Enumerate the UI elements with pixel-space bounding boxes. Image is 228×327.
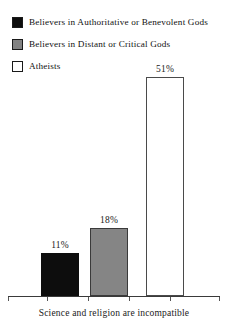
axis-tick: [47, 297, 48, 301]
black-square-icon: [12, 17, 23, 28]
legend-item-label: Believers in Authoritative or Benevolent…: [29, 17, 208, 28]
legend-item-atheists: Atheists: [12, 55, 222, 77]
legend-item-distant-critical: Believers in Distant or Critical Gods: [12, 33, 222, 55]
bar-distant-critical: [90, 228, 128, 296]
axis-tick: [129, 297, 130, 301]
white-square-icon: [12, 61, 23, 72]
axis-tick: [88, 297, 89, 301]
bar-atheists: [146, 77, 184, 296]
axis-tick: [8, 297, 9, 301]
bar-value-label: 11%: [41, 240, 79, 250]
bar-chart: Believers in Authoritative or Benevolent…: [0, 0, 228, 327]
legend-item-authoritative-benevolent: Believers in Authoritative or Benevolent…: [12, 11, 222, 33]
bar-authoritative-benevolent: [41, 253, 79, 296]
gray-square-icon: [12, 39, 23, 50]
x-axis-line: [8, 296, 220, 297]
bar-value-label: 51%: [146, 64, 184, 74]
axis-tick: [219, 297, 220, 301]
chart-caption: Science and religion are incompatible: [0, 308, 228, 318]
legend-item-label: Believers in Distant or Critical Gods: [29, 39, 170, 50]
bar-value-label: 18%: [90, 215, 128, 225]
legend-item-label: Atheists: [29, 61, 61, 72]
chart-legend: Believers in Authoritative or Benevolent…: [12, 11, 222, 77]
axis-tick: [170, 297, 171, 301]
